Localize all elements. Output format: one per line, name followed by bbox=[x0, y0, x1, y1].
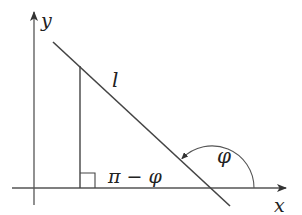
coordinate-diagram: y x l π − φ φ bbox=[0, 0, 302, 215]
inclination-angle-label: φ bbox=[217, 144, 231, 168]
x-axis-label: x bbox=[274, 194, 285, 215]
y-axis-label: y bbox=[40, 9, 52, 31]
supplement-angle-label: π − φ bbox=[107, 165, 162, 187]
line-l-label: l bbox=[112, 68, 118, 92]
right-angle-marker bbox=[80, 173, 95, 188]
